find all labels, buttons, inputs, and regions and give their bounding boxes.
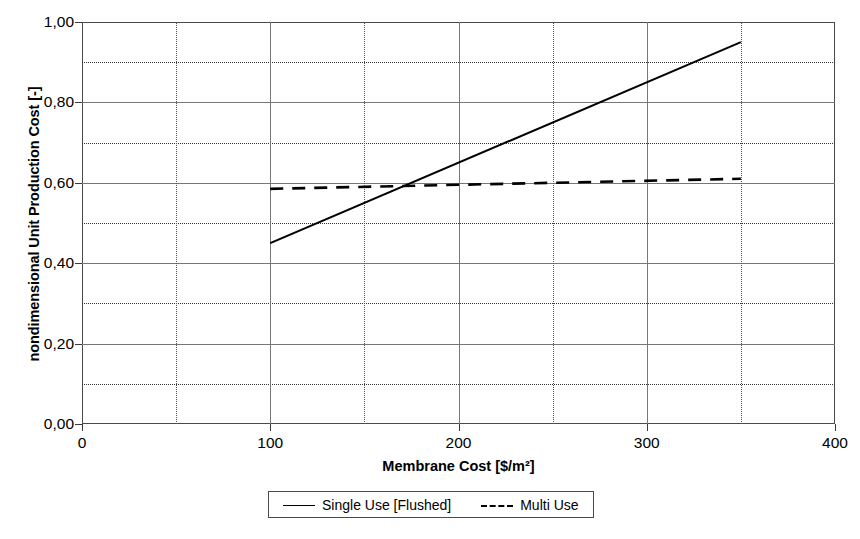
x-axis-tick-mark xyxy=(647,424,648,431)
x-axis-tick-label: 300 xyxy=(607,434,687,452)
legend-label: Multi Use xyxy=(520,497,578,513)
x-axis-tick-mark xyxy=(835,424,836,431)
plot-area xyxy=(82,22,835,424)
x-axis-tick-label: 400 xyxy=(795,434,860,452)
x-axis-tick-labels: 0100200300400 xyxy=(82,434,835,456)
y-axis-tick-labels: 0,000,200,400,600,801,00 xyxy=(8,0,74,539)
legend-line-solid-icon xyxy=(283,500,315,510)
x-axis-tick-marks xyxy=(82,424,835,432)
legend-entry: Single Use [Flushed] xyxy=(283,497,451,513)
y-axis-tick-mark xyxy=(75,102,82,103)
x-axis-tick-mark xyxy=(82,424,83,431)
chart-legend: Single Use [Flushed]Multi Use xyxy=(268,491,594,518)
y-axis-tick-label: 0,40 xyxy=(12,254,74,272)
series-layer xyxy=(82,22,835,424)
series-line xyxy=(270,179,741,189)
x-axis-tick-mark xyxy=(459,424,460,431)
x-axis-tick-label: 0 xyxy=(42,434,122,452)
y-axis-tick-mark xyxy=(75,22,82,23)
legend-label: Single Use [Flushed] xyxy=(322,497,451,513)
x-axis-tick-label: 200 xyxy=(419,434,499,452)
legend-line-dashed-icon xyxy=(481,500,513,510)
y-axis-tick-mark xyxy=(75,424,82,425)
y-axis-tick-label: 0,00 xyxy=(12,415,74,433)
chart-figure: nondimensional Unit Production Cost [-] … xyxy=(0,0,860,539)
caption-strip xyxy=(10,528,440,539)
y-axis-tick-label: 0,80 xyxy=(12,93,74,111)
y-axis-tick-mark xyxy=(75,263,82,264)
x-axis-tick-label: 100 xyxy=(230,434,310,452)
y-axis-tick-label: 0,20 xyxy=(12,335,74,353)
y-axis-tick-mark xyxy=(75,183,82,184)
y-axis-tick-label: 0,60 xyxy=(12,174,74,192)
y-axis-tick-label: 1,00 xyxy=(12,13,74,31)
series-line xyxy=(270,42,741,243)
x-axis-title: Membrane Cost [$/m²] xyxy=(82,458,835,474)
x-axis-tick-mark xyxy=(270,424,271,431)
legend-entry: Multi Use xyxy=(481,497,578,513)
y-axis-tick-mark xyxy=(75,344,82,345)
